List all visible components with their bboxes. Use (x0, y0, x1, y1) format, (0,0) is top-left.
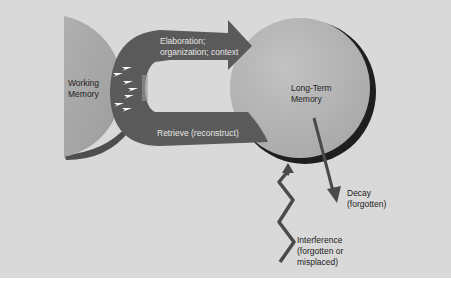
long-term-memory-label: Long-Term Memory (291, 83, 332, 105)
encode-arrow-label: Elaboration; organization; context (160, 36, 238, 58)
interference-label: Interference (forgotten or misplaced) (297, 235, 343, 268)
retrieve-label: Retrieve (reconstruct) (157, 128, 239, 139)
working-memory-label: Working Memory (68, 78, 99, 100)
interference-arrow (279, 163, 294, 262)
decay-label: Decay (forgotten) (347, 188, 386, 210)
